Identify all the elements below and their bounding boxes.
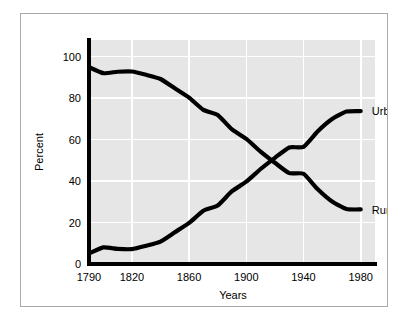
x-tick-label-1940: 1940 (291, 271, 315, 283)
y-tick-label-20: 20 (69, 217, 81, 229)
x-axis-tick-labels: 179018201860190019401980 (77, 271, 373, 283)
series-label-rural: Rural (372, 204, 387, 216)
y-tick-label-0: 0 (75, 258, 81, 270)
x-tick-label-1980: 1980 (348, 271, 372, 283)
y-tick-label-60: 60 (69, 134, 81, 146)
series-label-urban: Urban (372, 105, 387, 117)
x-tick-label-1790: 1790 (77, 271, 101, 283)
x-tick-label-1900: 1900 (234, 271, 258, 283)
x-tick-label-1820: 1820 (120, 271, 144, 283)
x-tick-label-1860: 1860 (177, 271, 201, 283)
figure-frame: 020406080100 179018201860190019401980 Ru… (20, 13, 388, 307)
y-tick-label-40: 40 (69, 175, 81, 187)
y-tick-label-100: 100 (63, 51, 81, 63)
x-axis-title: Years (219, 289, 247, 301)
y-tick-label-80: 80 (69, 92, 81, 104)
y-axis-title: Percent (33, 133, 45, 171)
population-line-chart: 020406080100 179018201860190019401980 Ru… (21, 14, 387, 306)
y-axis-tick-labels: 020406080100 (63, 51, 81, 270)
